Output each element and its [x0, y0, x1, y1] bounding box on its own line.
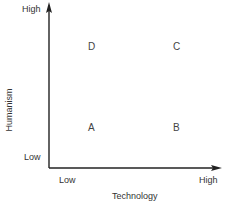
quadrant-bottom-left: A [88, 122, 95, 133]
axes [0, 0, 225, 204]
quadrant-bottom-right: B [173, 122, 180, 133]
y-axis-high-label: High [22, 4, 41, 14]
y-axis-low-label: Low [24, 152, 41, 162]
x-axis-high-label: High [199, 175, 218, 185]
y-axis-title: Humanism [4, 88, 14, 131]
x-axis-title: Technology [112, 191, 158, 201]
quadrant-top-right: C [173, 41, 180, 52]
x-axis-low-label: Low [59, 175, 76, 185]
quadrant-top-left: D [88, 41, 95, 52]
x-axis [49, 165, 222, 171]
y-axis [46, 2, 52, 168]
